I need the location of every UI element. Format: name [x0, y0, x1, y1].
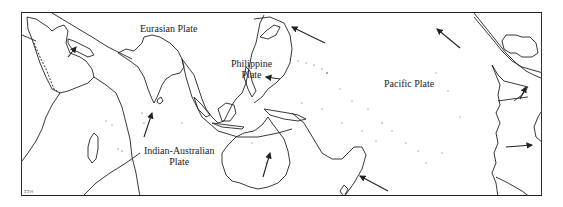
- sri-lanka: [157, 97, 163, 104]
- indian-plate-arrow: [144, 113, 152, 137]
- persian-gulf: [68, 39, 94, 57]
- label-indian-line1: Indian-Australian: [144, 145, 215, 156]
- tonga-trench: [292, 113, 366, 196]
- label-eurasian-plate: Eurasian Plate: [140, 23, 197, 34]
- map-graphic: [22, 13, 542, 196]
- japan: [260, 25, 280, 39]
- corner-mark: ΣΣΗ: [24, 189, 34, 194]
- india-coast: [118, 35, 184, 103]
- cocos-nazca-boundary: [498, 97, 528, 101]
- carlsberg-ridge: [94, 77, 140, 196]
- label-indian-australian-plate: Indian-Australian Plate: [144, 145, 215, 167]
- madagascar: [88, 133, 98, 163]
- new-zealand: [340, 185, 348, 196]
- plate-map: Eurasian Plate Philippine Plate Pacific …: [21, 12, 542, 196]
- pacific-plate-arrow-3: [360, 176, 388, 191]
- nazca-plate-arrow: [506, 145, 532, 147]
- south-america-coast: [534, 109, 542, 143]
- red-sea-boundary: [34, 43, 60, 93]
- label-pacific-plate: Pacific Plate: [384, 78, 434, 89]
- americas-coast: [474, 13, 542, 79]
- pacific-plate-arrow-2: [437, 29, 460, 48]
- cocos-boundary: [492, 65, 528, 101]
- borneo: [218, 103, 236, 121]
- african-coast: [22, 93, 60, 161]
- pacific-plate-arrow-1: [292, 27, 325, 43]
- mexico-gulf: [502, 35, 538, 57]
- chile-rise: [496, 177, 530, 196]
- label-philippine-line1: Philippine: [231, 58, 272, 69]
- australian-plate-arrow: [263, 153, 270, 177]
- southwest-ridge: [82, 153, 140, 196]
- label-philippine-line2: Plate: [231, 69, 272, 80]
- eurasian-boundary-south: [22, 35, 36, 41]
- label-indian-line2: Plate: [144, 156, 215, 167]
- label-philippine-plate: Philippine Plate: [231, 58, 272, 80]
- east-pacific-rise: [492, 65, 500, 196]
- java: [212, 123, 244, 129]
